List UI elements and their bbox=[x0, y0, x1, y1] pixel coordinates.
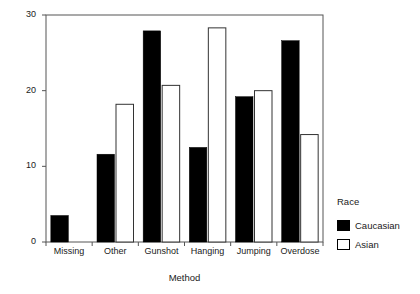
bar bbox=[301, 135, 319, 242]
bar bbox=[51, 216, 68, 242]
bar bbox=[208, 28, 226, 242]
x-axis-title: Method bbox=[46, 272, 323, 283]
bar bbox=[116, 104, 134, 242]
bar bbox=[162, 85, 180, 242]
bar bbox=[236, 97, 254, 242]
bars-group bbox=[51, 28, 318, 242]
legend-item-caucasian: Caucasian bbox=[337, 220, 400, 231]
legend-title: Race bbox=[337, 196, 359, 207]
legend-swatch-asian bbox=[337, 239, 350, 250]
bar bbox=[255, 91, 273, 242]
bar bbox=[282, 41, 300, 242]
bar bbox=[143, 31, 161, 242]
x-axis-tick-label: Overdose bbox=[260, 246, 340, 256]
bar bbox=[97, 154, 115, 242]
bar bbox=[189, 147, 207, 242]
legend-item-asian: Asian bbox=[337, 239, 379, 250]
legend-swatch-caucasian bbox=[337, 220, 350, 231]
axis-ticks bbox=[42, 15, 323, 246]
bar-chart: Percentage 0102030 MissingOtherGunshotHa… bbox=[0, 0, 420, 294]
legend-label-asian: Asian bbox=[355, 240, 379, 250]
legend-label-caucasian: Caucasian bbox=[355, 221, 400, 231]
